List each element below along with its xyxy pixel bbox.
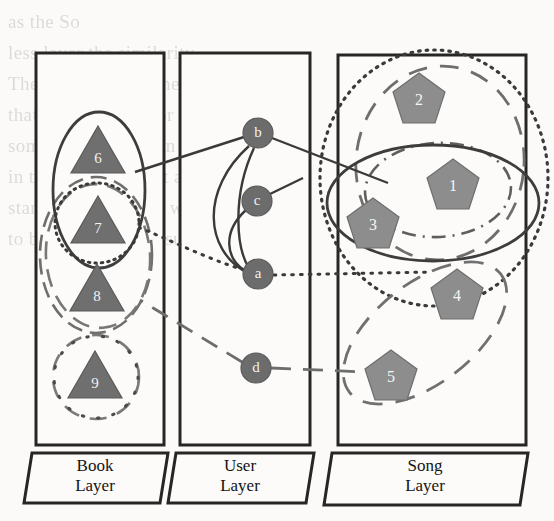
user-node-d-label: d bbox=[252, 359, 260, 375]
song-node-2-label: 2 bbox=[415, 91, 423, 108]
book-node-8-label: 8 bbox=[93, 288, 101, 304]
user-node-c-label: c bbox=[254, 192, 261, 208]
user-node-a[interactable]: a bbox=[243, 259, 273, 289]
book-node-9-label: 9 bbox=[91, 375, 99, 391]
user-node-c[interactable]: c bbox=[242, 186, 272, 216]
song-node-3-label: 3 bbox=[369, 216, 377, 233]
book-node-7-label: 7 bbox=[94, 220, 102, 236]
multilayer-network-diagram: 6 7 8 9 b c bbox=[0, 0, 554, 521]
user-node-a-label: a bbox=[255, 265, 262, 281]
user-node-d[interactable]: d bbox=[241, 353, 271, 383]
panel-user[interactable] bbox=[168, 53, 314, 503]
song-node-4-label: 4 bbox=[453, 287, 461, 304]
user-node-b[interactable]: b bbox=[243, 118, 273, 148]
book-node-6-label: 6 bbox=[94, 150, 102, 166]
user-node-b-label: b bbox=[254, 124, 262, 140]
song-node-5-label: 5 bbox=[387, 368, 395, 385]
figure-canvas: as the So less layer the similarity Thes… bbox=[0, 0, 554, 521]
song-node-1-label: 1 bbox=[449, 177, 457, 194]
